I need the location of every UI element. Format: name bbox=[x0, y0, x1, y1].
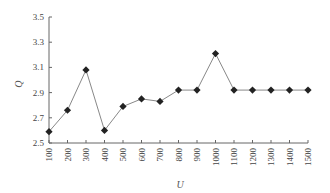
diamond-marker-icon bbox=[286, 86, 293, 93]
y-tick-label: 3.3 bbox=[33, 37, 45, 47]
data-series bbox=[45, 50, 311, 135]
x-tick-label: 500 bbox=[118, 148, 128, 162]
x-axis-ticks: 1002003004005006007008009001000110012001… bbox=[44, 140, 313, 166]
diamond-marker-icon bbox=[230, 86, 237, 93]
axes bbox=[49, 17, 308, 143]
line-chart: 2.52.72.93.13.33.5 100200300400500600700… bbox=[0, 0, 330, 193]
x-tick-label: 200 bbox=[63, 148, 73, 162]
x-tick-label: 800 bbox=[174, 148, 184, 162]
y-tick-label: 2.5 bbox=[33, 138, 45, 148]
diamond-marker-icon bbox=[267, 86, 274, 93]
diamond-marker-icon bbox=[82, 66, 89, 73]
diamond-marker-icon bbox=[193, 86, 200, 93]
x-tick-label: 1300 bbox=[266, 148, 276, 167]
x-tick-label: 600 bbox=[137, 148, 147, 162]
x-tick-label: 900 bbox=[192, 148, 202, 162]
y-tick-label: 3.5 bbox=[33, 12, 45, 22]
x-tick-label: 1400 bbox=[285, 148, 295, 167]
x-axis-label: U bbox=[176, 179, 184, 190]
x-tick-label: 1500 bbox=[303, 148, 313, 167]
diamond-marker-icon bbox=[212, 50, 219, 57]
x-tick-label: 700 bbox=[155, 148, 165, 162]
diamond-marker-icon bbox=[175, 86, 182, 93]
y-tick-label: 2.9 bbox=[33, 88, 45, 98]
x-tick-label: 300 bbox=[81, 148, 91, 162]
x-tick-label: 1000 bbox=[211, 148, 221, 167]
y-tick-label: 2.7 bbox=[33, 113, 45, 123]
x-tick-label: 400 bbox=[100, 148, 110, 162]
diamond-marker-icon bbox=[156, 98, 163, 105]
diamond-marker-icon bbox=[304, 86, 311, 93]
x-tick-label: 100 bbox=[44, 148, 54, 162]
y-tick-label: 3.1 bbox=[33, 62, 44, 72]
diamond-marker-icon bbox=[138, 95, 145, 102]
diamond-marker-icon bbox=[249, 86, 256, 93]
x-tick-label: 1200 bbox=[248, 148, 258, 167]
x-tick-label: 1100 bbox=[229, 148, 239, 166]
y-axis-label: Q bbox=[13, 80, 24, 88]
